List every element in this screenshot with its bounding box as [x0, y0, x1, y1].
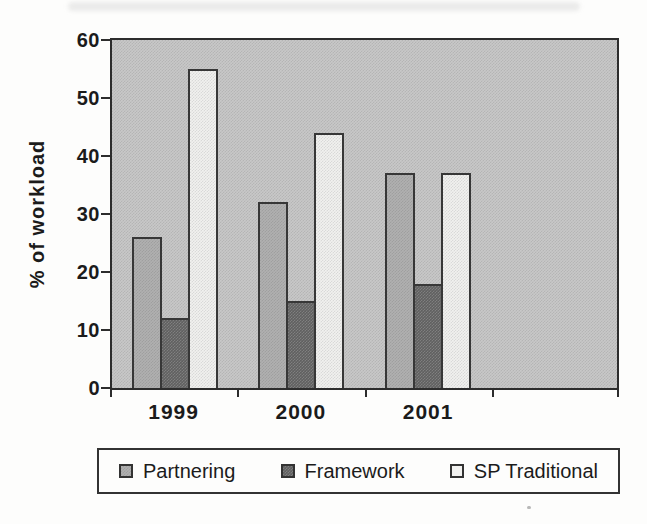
legend-item-sp-traditional: SP Traditional — [450, 460, 598, 483]
legend-label-sp-traditional: SP Traditional — [474, 460, 598, 483]
y-tick-label-60: 60 — [38, 29, 100, 52]
bar-sp-traditional-2000 — [314, 133, 344, 388]
x-label-2000: 2000 — [256, 400, 346, 424]
y-tick-mark-50 — [101, 97, 110, 99]
legend-label-partnering: Partnering — [143, 460, 235, 483]
scanned-bar-chart-figure: % of workload Partnering Framework SP Tr… — [0, 0, 647, 524]
y-tick-label-30: 30 — [38, 203, 100, 226]
y-tick-mark-0 — [101, 387, 110, 389]
x-tick-mark-0 — [110, 389, 112, 397]
y-tick-mark-10 — [101, 329, 110, 331]
y-tick-mark-60 — [101, 39, 110, 41]
scan-artifact-top — [68, 2, 580, 11]
bar-partnering-1999 — [132, 237, 162, 388]
x-tick-mark-4 — [617, 389, 619, 397]
bar-sp-traditional-2001 — [441, 173, 471, 388]
y-tick-label-20: 20 — [38, 261, 100, 284]
legend-label-framework: Framework — [305, 460, 405, 483]
x-label-2001: 2001 — [383, 400, 473, 424]
legend-item-framework: Framework — [281, 460, 405, 483]
y-tick-label-0: 0 — [38, 377, 100, 400]
bar-framework-1999 — [160, 318, 190, 388]
legend: Partnering Framework SP Traditional — [97, 448, 620, 494]
bar-framework-2001 — [413, 284, 443, 388]
legend-swatch-framework — [281, 464, 295, 478]
y-tick-label-10: 10 — [38, 319, 100, 342]
y-tick-mark-40 — [101, 155, 110, 157]
x-tick-mark-2 — [365, 389, 367, 397]
legend-swatch-sp-traditional — [450, 464, 464, 478]
plot-area — [110, 38, 619, 390]
scan-artifact-dot — [527, 506, 531, 509]
y-tick-mark-20 — [101, 271, 110, 273]
x-tick-mark-3 — [492, 389, 494, 397]
x-tick-mark-1 — [237, 389, 239, 397]
bar-partnering-2001 — [385, 173, 415, 388]
y-tick-mark-30 — [101, 213, 110, 215]
bar-partnering-2000 — [258, 202, 288, 388]
bar-framework-2000 — [286, 301, 316, 388]
x-label-1999: 1999 — [129, 400, 219, 424]
y-tick-label-50: 50 — [38, 87, 100, 110]
y-tick-label-40: 40 — [38, 145, 100, 168]
bar-sp-traditional-1999 — [188, 69, 218, 388]
legend-swatch-partnering — [119, 464, 133, 478]
legend-item-partnering: Partnering — [119, 460, 235, 483]
